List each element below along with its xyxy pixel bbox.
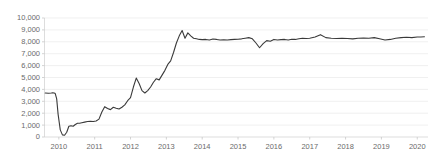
- y-tick-label: 5,000: [21, 73, 40, 82]
- x-tick-label: 2017: [301, 142, 318, 151]
- y-tick-label: 9,000: [21, 25, 40, 34]
- x-axis-tick-labels: 2010201120122013201420152016201720182019…: [50, 142, 425, 151]
- x-tick-label: 2016: [266, 142, 283, 151]
- y-tick-label: 7,000: [21, 49, 40, 58]
- y-axis: [42, 18, 45, 137]
- chart-plot-area: 01,0002,0003,0004,0005,0006,0007,0008,00…: [0, 0, 432, 167]
- x-tick-label: 2012: [122, 142, 139, 151]
- x-tick-label: 2014: [194, 142, 211, 151]
- y-tick-label: 2,000: [21, 109, 40, 118]
- series-line: [45, 31, 424, 136]
- y-tick-label: 3,000: [21, 97, 40, 106]
- x-axis: [45, 137, 429, 140]
- y-tick-label: 0: [36, 132, 40, 141]
- y-tick-label: 6,000: [21, 61, 40, 70]
- data-series: [45, 31, 424, 136]
- y-tick-label: 8,000: [21, 37, 40, 46]
- y-tick-label: 10,000: [17, 13, 40, 22]
- gridlines: [45, 18, 429, 125]
- x-tick-label: 2018: [337, 142, 354, 151]
- line-chart: 01,0002,0003,0004,0005,0006,0007,0008,00…: [0, 0, 432, 167]
- x-tick-label: 2013: [158, 142, 175, 151]
- y-tick-label: 4,000: [21, 85, 40, 94]
- x-tick-label: 2010: [50, 142, 67, 151]
- x-tick-label: 2019: [373, 142, 390, 151]
- x-tick-label: 2015: [230, 142, 247, 151]
- x-tick-label: 2011: [87, 142, 103, 151]
- x-tick-label: 2020: [409, 142, 426, 151]
- y-axis-tick-labels: 01,0002,0003,0004,0005,0006,0007,0008,00…: [17, 13, 40, 141]
- y-tick-label: 1,000: [21, 121, 40, 130]
